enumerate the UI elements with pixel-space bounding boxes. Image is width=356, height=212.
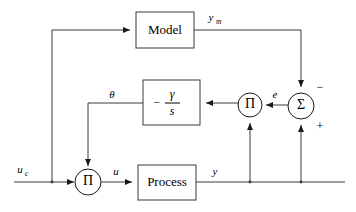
wire-ym-to-sigma-minus xyxy=(194,30,301,87)
signal-ym-base: y xyxy=(208,11,214,23)
signal-y-base: y xyxy=(212,165,218,177)
signal-label-uc: u c xyxy=(17,163,29,178)
adaptation-numerator: γ xyxy=(170,87,175,101)
operator-sigma-symbol: Σ xyxy=(297,97,305,112)
block-process-label: Process xyxy=(147,174,187,189)
wire-y-to-sigma-plus xyxy=(300,125,303,183)
operator-pi-adaptation[interactable]: Π xyxy=(238,93,262,117)
adaptation-minus-sign: − xyxy=(154,95,161,109)
diagram-canvas: Model − γ s Process Π Σ Π xyxy=(0,0,356,212)
sigma-plus-sign: + xyxy=(317,119,324,133)
signal-label-y: y xyxy=(212,165,218,177)
block-process[interactable]: Process xyxy=(138,165,196,200)
block-model[interactable]: Model xyxy=(136,12,194,48)
signal-label-e: e xyxy=(273,88,278,100)
signal-label-ym: y m xyxy=(208,11,222,26)
adaptation-denominator: s xyxy=(170,104,175,118)
signal-theta-base: θ xyxy=(109,88,115,100)
operator-pi-adaptation-symbol: Π xyxy=(245,96,255,111)
signal-u-base: u xyxy=(113,165,119,177)
signal-label-u: u xyxy=(113,165,119,177)
wire-theta-to-pi-input xyxy=(88,103,143,166)
signal-label-theta: θ xyxy=(109,88,115,100)
control-block-diagram: Model − γ s Process Π Σ Π xyxy=(0,0,356,212)
wire-y-to-pi-adapt xyxy=(249,123,252,183)
sigma-plus-symbol: + xyxy=(317,119,324,133)
signal-e-base: e xyxy=(273,88,278,100)
block-model-label: Model xyxy=(148,22,182,37)
wire-uc-branch-to-model xyxy=(51,30,130,183)
signal-ym-subscript: m xyxy=(216,17,222,26)
operator-sigma[interactable]: Σ xyxy=(288,93,314,119)
signal-uc-subscript: c xyxy=(25,169,29,178)
operator-pi-input-symbol: Π xyxy=(83,173,93,188)
block-adaptation-law[interactable]: − γ s xyxy=(143,80,200,125)
sigma-minus-symbol: − xyxy=(317,80,324,94)
sigma-minus-sign: − xyxy=(317,80,324,94)
signal-uc-base: u xyxy=(17,163,23,175)
operator-pi-input[interactable]: Π xyxy=(75,169,101,195)
